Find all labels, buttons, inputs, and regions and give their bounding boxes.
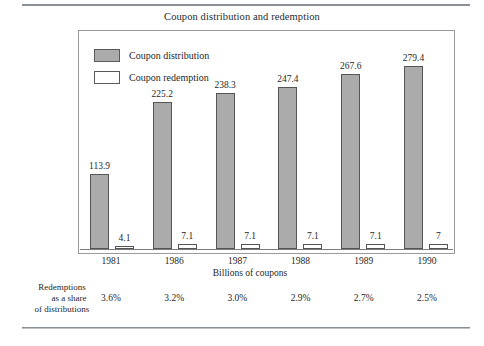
chart-title: Coupon distribution and redemption — [0, 11, 484, 22]
bar-groups: 113.94.1225.27.1238.37.1247.47.1267.67.1… — [90, 39, 448, 249]
x-axis-label: 1988 — [279, 256, 323, 266]
distribution-bar-wrap: 225.2 — [153, 39, 172, 249]
x-axis-labels: 198119861987198819891990 — [89, 256, 449, 266]
distribution-bar — [404, 66, 423, 249]
plot-area: 113.94.1225.27.1238.37.1247.47.1267.67.1… — [79, 31, 454, 253]
distribution-value-label: 267.6 — [340, 61, 361, 72]
distribution-value-label: 238.3 — [214, 80, 235, 91]
redemption-value-label: 7 — [436, 231, 441, 242]
redemption-share-value: 3.2% — [152, 293, 196, 303]
x-axis-label: 1989 — [342, 256, 386, 266]
distribution-value-label: 225.2 — [152, 89, 173, 100]
distribution-bar-wrap: 267.6 — [341, 39, 360, 249]
distribution-value-label: 247.4 — [277, 74, 298, 85]
bar-group: 225.27.1 — [153, 39, 197, 249]
redemption-value-label: 7.1 — [370, 231, 382, 242]
x-axis-label: 1981 — [89, 256, 133, 266]
plot-frame: Coupon distribution Coupon redemption 11… — [78, 30, 455, 254]
distribution-value-label: 279.4 — [403, 53, 424, 64]
top-divider-rule — [22, 4, 470, 6]
redemption-value-label: 7.1 — [307, 231, 319, 242]
distribution-bar — [90, 174, 109, 249]
redemption-bar-wrap: 7.1 — [178, 39, 197, 249]
bar-group: 113.94.1 — [90, 39, 134, 249]
distribution-bar-wrap: 279.4 — [404, 39, 423, 249]
distribution-value-label: 113.9 — [89, 161, 110, 172]
redemption-bar-wrap: 7.1 — [241, 39, 260, 249]
bottom-divider-rule — [22, 327, 470, 328]
redemption-bar-wrap: 7 — [429, 39, 448, 249]
distribution-bar — [341, 74, 360, 249]
distribution-bar — [278, 87, 297, 249]
redemption-share-value: 2.5% — [405, 293, 449, 303]
redemption-value-label: 7.1 — [181, 231, 193, 242]
redemption-share-values: 3.6%3.2%3.0%2.9%2.7%2.5% — [89, 293, 449, 303]
redemption-share-value: 2.7% — [342, 293, 386, 303]
distribution-bar-wrap: 113.9 — [90, 39, 109, 249]
x-axis-label: 1990 — [405, 256, 449, 266]
bar-group: 238.37.1 — [216, 39, 260, 249]
x-axis-baseline — [80, 249, 453, 250]
distribution-bar — [153, 102, 172, 250]
bar-group: 247.47.1 — [278, 39, 322, 249]
annotation-line-3: of distributions — [16, 304, 108, 315]
redemption-value-label: 7.1 — [244, 231, 256, 242]
redemption-bar-wrap: 4.1 — [115, 39, 134, 249]
annotation-line-1: Redemptions — [16, 282, 108, 293]
redemption-share-value: 3.6% — [89, 293, 133, 303]
distribution-bar-wrap: 238.3 — [216, 39, 235, 249]
bar-group: 267.67.1 — [341, 39, 385, 249]
redemption-bar-wrap: 7.1 — [303, 39, 322, 249]
distribution-bar — [216, 93, 235, 249]
redemption-share-value: 2.9% — [279, 293, 323, 303]
bar-group: 279.47 — [404, 39, 448, 249]
x-axis-title: Billions of coupons — [0, 268, 484, 278]
x-axis-label: 1986 — [152, 256, 196, 266]
redemption-value-label: 4.1 — [119, 233, 131, 244]
redemption-bar-wrap: 7.1 — [366, 39, 385, 249]
redemption-share-value: 3.0% — [215, 293, 259, 303]
distribution-bar-wrap: 247.4 — [278, 39, 297, 249]
x-axis-label: 1987 — [215, 256, 259, 266]
